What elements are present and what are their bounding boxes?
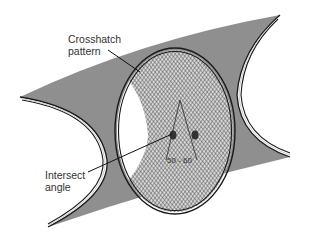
cylinder-bore-diagram [0,0,309,245]
intersect-angle-label: Intersect angle [45,169,85,193]
crosshatch-label: Crosshatch pattern [68,33,121,57]
angle-range-label: 50 - 60 [167,156,192,165]
